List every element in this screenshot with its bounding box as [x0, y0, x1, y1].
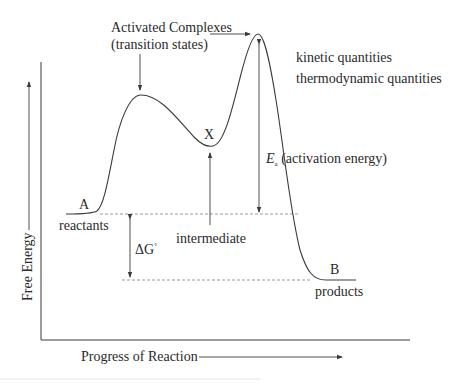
intermediate-label: intermediate [176, 232, 246, 246]
delta-g-label: ΔG° [135, 243, 157, 257]
thermodynamic-quantities-label: thermodynamic quantities [296, 72, 442, 86]
transition-states-label: (transition states) [111, 38, 208, 52]
kinetic-quantities-label: kinetic quantities [296, 51, 392, 65]
energy-diagram-canvas [0, 0, 465, 385]
delta-g-symbol: ΔG [135, 242, 154, 257]
product-symbol: B [330, 263, 339, 277]
products-label: products [315, 285, 363, 299]
reactant-symbol: A [79, 198, 89, 212]
activation-energy-label: Ea (activation energy) [266, 152, 387, 168]
ea-text: (activation energy) [281, 151, 387, 166]
ea-symbol: E [266, 151, 275, 166]
y-axis-label: Free Energy [21, 232, 35, 301]
intermediate-symbol: X [204, 128, 214, 142]
reactants-label: reactants [59, 219, 109, 233]
bottom-divider [0, 378, 260, 380]
delta-g-superscript: ° [154, 242, 157, 250]
activated-complexes-label: Activated Complexes [111, 21, 232, 35]
x-axis-label: Progress of Reaction [81, 350, 198, 364]
ea-subscript: a [275, 160, 278, 168]
